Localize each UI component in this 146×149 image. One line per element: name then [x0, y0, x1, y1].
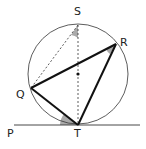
diagram-canvas	[0, 0, 146, 149]
label-q: Q	[16, 89, 25, 100]
center-dot	[76, 72, 79, 75]
segment-qt	[31, 88, 78, 125]
circle-theorem-diagram: S R Q P T	[0, 0, 146, 149]
segment-rt	[78, 44, 116, 125]
label-t: T	[74, 128, 81, 139]
segment-qr	[31, 44, 116, 88]
angle-s	[71, 25, 78, 38]
segment-sq	[31, 25, 78, 88]
label-p: P	[7, 128, 14, 139]
label-s: S	[74, 6, 81, 17]
label-r: R	[120, 37, 128, 48]
